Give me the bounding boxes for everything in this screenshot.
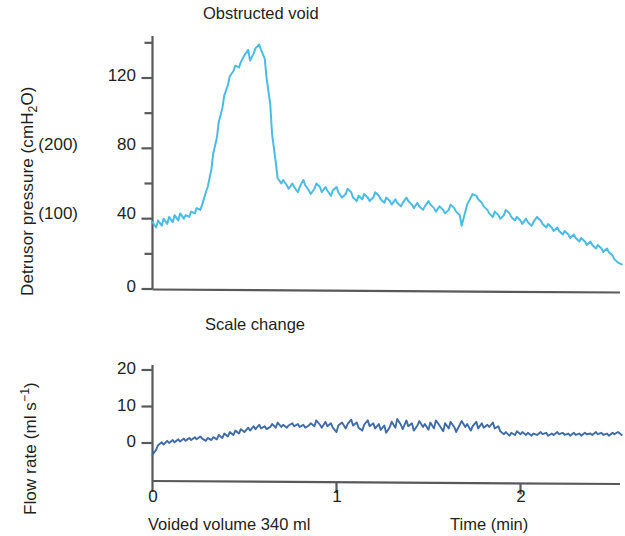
flow-x-axis-line [153,481,621,484]
time-axis-label: Time (min) [450,515,528,534]
urodynamics-figure: Obstructed void Detrusor pressure (cmH2O… [0,0,625,536]
x-tick-2: 2 [501,487,541,507]
flow-tick-marks [142,370,153,443]
pressure-axes [142,36,621,293]
pressure-trace-line [153,45,622,265]
x-tick-1: 1 [317,487,357,507]
pressure-tick-marks [142,43,153,289]
pressure-x-axis-line [153,290,621,293]
x-tick-0: 0 [133,487,173,507]
voided-volume-caption: Voided volume 340 ml [148,515,310,534]
pressure-plot [0,0,625,300]
flow-trace-line [153,419,622,455]
